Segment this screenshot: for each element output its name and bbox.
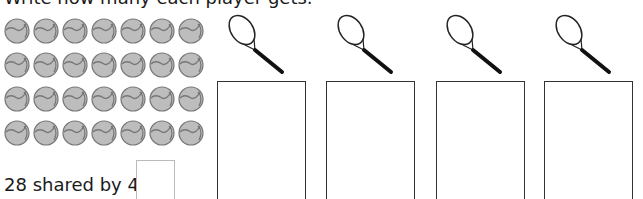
tennis-ball-icon: [33, 86, 59, 112]
tennis-ball-icon: [120, 120, 146, 146]
tennis-ball-icon: [178, 52, 204, 78]
tennis-ball-icon: [62, 18, 88, 44]
tennis-ball-icon: [178, 86, 204, 112]
tennis-racket-icon: [549, 10, 619, 76]
instruction-text: Write how many each player gets.: [4, 0, 313, 8]
tennis-ball-icon: [62, 120, 88, 146]
tennis-ball-icon: [178, 18, 204, 44]
tennis-ball-icon: [120, 86, 146, 112]
tennis-ball-icon: [62, 86, 88, 112]
tennis-ball-icon: [120, 18, 146, 44]
equation-answer-box[interactable]: [136, 160, 175, 199]
tennis-ball-icon: [91, 120, 117, 146]
tennis-ball-icon: [149, 120, 175, 146]
ball-row: [4, 86, 209, 112]
tennis-ball-icon: [120, 52, 146, 78]
tennis-ball-icon: [91, 86, 117, 112]
ball-row: [4, 52, 209, 78]
tennis-ball-icon: [62, 52, 88, 78]
tennis-ball-icon: [4, 120, 30, 146]
tennis-ball-icon: [91, 52, 117, 78]
tennis-racket-icon: [222, 10, 292, 76]
player-answer-box[interactable]: [544, 81, 633, 199]
player-answer-box[interactable]: [217, 81, 306, 199]
tennis-ball-icon: [33, 18, 59, 44]
tennis-ball-icon: [149, 18, 175, 44]
tennis-racket-icon: [440, 10, 510, 76]
tennis-ball-icon: [149, 86, 175, 112]
tennis-racket-icon: [331, 10, 401, 76]
tennis-ball-icon: [33, 52, 59, 78]
tennis-ball-icon: [149, 52, 175, 78]
player-answer-box[interactable]: [436, 81, 525, 199]
tennis-ball-icon: [4, 18, 30, 44]
tennis-ball-icon: [33, 120, 59, 146]
tennis-ball-icon: [4, 86, 30, 112]
tennis-ball-grid: [4, 18, 209, 154]
player-answer-box[interactable]: [326, 81, 415, 199]
ball-row: [4, 120, 209, 146]
ball-row: [4, 18, 209, 44]
tennis-ball-icon: [4, 52, 30, 78]
tennis-ball-icon: [178, 120, 204, 146]
tennis-ball-icon: [91, 18, 117, 44]
